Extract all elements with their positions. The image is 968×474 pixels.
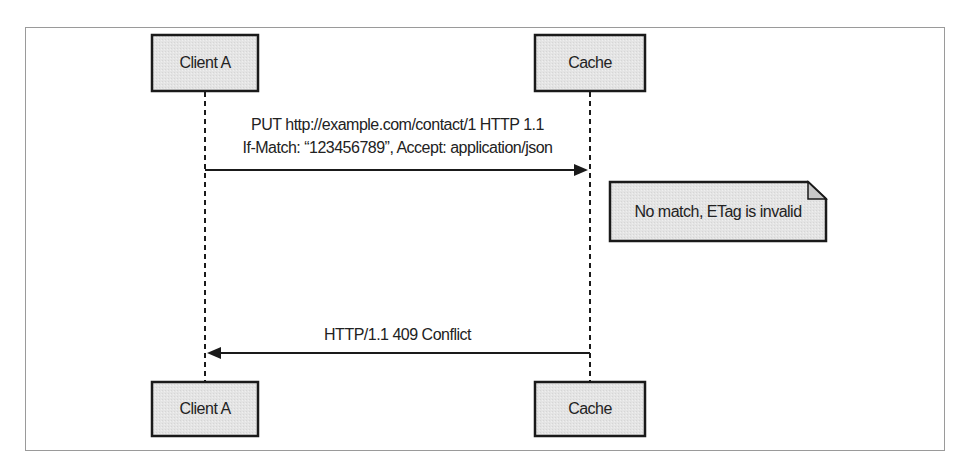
actor-label-client-a-bottom: Client A — [152, 382, 258, 436]
actor-label-cache-top: Cache — [535, 35, 645, 91]
arrowhead-right-icon — [574, 164, 588, 176]
message-409-label: HTTP/1.1 409 Conflict — [205, 326, 590, 344]
actor-label-client-a-top: Client A — [152, 35, 258, 91]
actor-label-cache-bottom: Cache — [535, 382, 645, 436]
note-text: No match, ETag is invalid — [610, 182, 826, 241]
arrowhead-left-icon — [207, 347, 221, 359]
message-put-line2: If-Match: “123456789”, Accept: applicati… — [205, 139, 590, 157]
message-put-line1: PUT http://example.com/contact/1 HTTP 1.… — [205, 116, 590, 134]
